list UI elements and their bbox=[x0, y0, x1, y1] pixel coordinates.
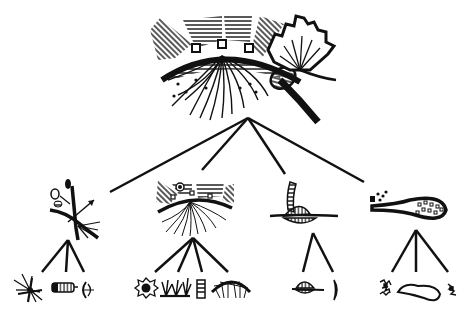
branch-2-connectors bbox=[155, 238, 228, 272]
leaf-hairy-mound-icon bbox=[212, 282, 250, 298]
leaf-spiked-circle-icon bbox=[135, 278, 158, 298]
branch-2-mini-ecosystem-icon bbox=[156, 180, 234, 236]
leaf-small-scribble-icon bbox=[448, 284, 456, 295]
leaf-thin-curved-segment-icon bbox=[334, 280, 337, 300]
root-ecosystem-icon bbox=[150, 16, 336, 122]
branch-1-crossed-branches-icon bbox=[50, 179, 100, 240]
leaf-grass-tufts-icon bbox=[160, 278, 191, 296]
leaf-small-curved-seed-icon bbox=[83, 282, 94, 298]
leaf-stacked-bars-icon bbox=[197, 280, 205, 298]
branch-1-connectors bbox=[42, 240, 84, 272]
leaf-scribbled-cluster-icon bbox=[380, 280, 391, 295]
leaf-small-striped-spindle-icon bbox=[292, 282, 324, 293]
branch-3-striped-spindle-icon bbox=[270, 182, 338, 223]
tree-diagram bbox=[0, 0, 470, 311]
root-connectors bbox=[110, 118, 364, 192]
leaf-starburst-fan-icon bbox=[14, 274, 42, 302]
leaf-striped-capsule-icon bbox=[52, 283, 78, 292]
leaf-outline-teardrop-loop-icon bbox=[398, 285, 440, 300]
branch-3-connectors bbox=[303, 233, 333, 272]
branch-4-dotted-teardrop-icon bbox=[370, 190, 446, 218]
branch-4-connectors bbox=[392, 230, 448, 272]
